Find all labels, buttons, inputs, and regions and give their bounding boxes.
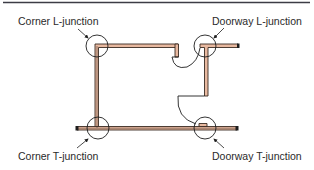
label-doorway-t-junction: Doorway T-junction: [212, 150, 302, 162]
wall-top-left: [95, 44, 178, 128]
label-doorway-l-junction: Doorway L-junction: [212, 15, 302, 27]
leader-arrow-doorway-t: [214, 139, 224, 148]
wall-end-cap-bottom-right: [236, 126, 239, 131]
door-swing-arc-bottom: [178, 96, 205, 124]
leader-arrow-corner-l: [78, 29, 88, 38]
label-corner-l-junction: Corner L-junction: [18, 15, 99, 27]
wall-end-cap-top-right: [237, 44, 240, 49]
leader-arrow-doorway-l: [214, 28, 224, 38]
leader-arrow-corner-t: [77, 139, 88, 148]
label-corner-t-junction: Corner T-junction: [18, 150, 98, 162]
wall-top-right: [200, 44, 238, 96]
wall-bottom-notch: [199, 124, 207, 127]
wall-top-jamb: [175, 44, 179, 57]
wall-end-cap-left: [76, 126, 79, 131]
